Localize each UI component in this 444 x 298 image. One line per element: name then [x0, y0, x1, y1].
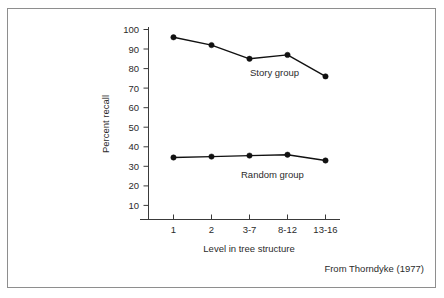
random-group-point-13-16 [323, 158, 328, 163]
story-group-point-1 [171, 35, 176, 40]
story-group-point-3-7 [247, 56, 252, 61]
random-group-label: Random group [241, 169, 304, 180]
y-tick-label-100: 100 [123, 24, 139, 35]
story-group-label: Story group [250, 67, 299, 78]
story-group-point-8-12 [285, 52, 290, 57]
y-tick-label-60: 60 [128, 102, 139, 113]
figure-container: 100 90 80 70 60 50 40 30 20 10 Percent r… [0, 0, 444, 298]
y-axis-ticks [144, 30, 149, 206]
source-attribution: From Thorndyke (1977) [324, 263, 424, 274]
y-axis-tick-labels: 100 90 80 70 60 50 40 30 20 10 [123, 24, 139, 211]
random-group-point-2 [209, 154, 214, 159]
random-group-point-3-7 [247, 153, 252, 158]
x-axis-tick-labels: 1 2 3-7 8-12 13-16 [171, 224, 338, 235]
x-axis-title: Level in tree structure [203, 243, 294, 254]
random-group-point-1 [171, 155, 176, 160]
random-group-point-8-12 [285, 152, 290, 157]
x-tick-label-8-12: 8-12 [278, 224, 297, 235]
y-tick-label-80: 80 [128, 63, 139, 74]
x-tick-label-13-16: 13-16 [313, 224, 337, 235]
y-tick-label-90: 90 [128, 44, 139, 55]
series-random-group [171, 152, 328, 163]
y-tick-label-40: 40 [128, 141, 139, 152]
x-tick-label-1: 1 [171, 224, 176, 235]
y-tick-label-20: 20 [128, 180, 139, 191]
y-axis-title: Percent recall [100, 95, 111, 153]
x-tick-label-2: 2 [209, 224, 214, 235]
y-tick-label-10: 10 [128, 200, 139, 211]
y-tick-label-30: 30 [128, 161, 139, 172]
y-tick-label-70: 70 [128, 83, 139, 94]
story-group-point-13-16 [323, 74, 328, 79]
line-chart: 100 90 80 70 60 50 40 30 20 10 Percent r… [0, 0, 444, 298]
y-tick-label-50: 50 [128, 122, 139, 133]
x-axis-ticks [174, 215, 326, 220]
story-group-point-2 [209, 42, 214, 47]
x-tick-label-3-7: 3-7 [243, 224, 257, 235]
